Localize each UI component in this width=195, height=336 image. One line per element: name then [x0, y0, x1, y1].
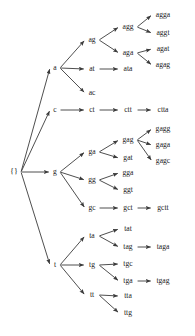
tree-node-tt: tt — [90, 290, 95, 299]
tree-node-agga: agga — [156, 10, 171, 19]
tree-node-ggt: ggt — [123, 185, 134, 194]
tree-node-ttg: ttg — [124, 308, 132, 317]
nodes-layer: {}acgtagatacctgagggctatgttaggagaatacttga… — [10, 10, 171, 317]
tree-node-gagg: gagg — [156, 124, 171, 133]
tree-node-tgag: tgag — [156, 276, 169, 285]
tree-edge-gg-to-ggt — [100, 180, 118, 189]
tree-node-ctt: ctt — [124, 105, 132, 114]
tree-node-ga: ga — [88, 147, 96, 156]
tree-node-at: at — [89, 64, 95, 73]
tree-node-gg: gg — [88, 175, 96, 184]
tree-node-tat: tat — [124, 224, 132, 233]
tree-node-gc: gc — [88, 203, 96, 212]
tree-edge-t-to-tt — [60, 265, 84, 294]
tree-node-tgc: tgc — [123, 259, 133, 268]
tree-edge-aga-to-agag — [137, 53, 151, 64]
tree-edge-t-to-ta — [60, 237, 84, 265]
tree-node-agg: agg — [123, 22, 134, 31]
tree-node-ata: ata — [124, 64, 133, 73]
tree-node-ctta: ctta — [158, 105, 170, 114]
tree-node-g: g — [53, 167, 57, 176]
tree-edge-root-to-t — [21, 172, 49, 263]
tree-edge-ga-to-gag — [99, 141, 117, 152]
tree-edge-tg-to-tgc — [100, 264, 118, 265]
tree-canvas: {}acgtagatacctgagggctatgttaggagaatacttga… — [0, 0, 195, 336]
tree-edge-tt-to-tta — [100, 295, 118, 296]
tree-node-ct: ct — [89, 105, 95, 114]
tree-node-a: a — [53, 63, 57, 72]
tree-edge-ag-to-agg — [99, 28, 117, 40]
tree-node-aggt: aggt — [156, 28, 170, 37]
tree-node-ag: ag — [88, 35, 95, 44]
tree-node-agag: agag — [156, 60, 171, 69]
tree-edge-a-to-ac — [60, 68, 84, 92]
tree-root-node: {} — [10, 167, 18, 176]
tree-edge-gg-to-gga — [100, 173, 118, 179]
tree-node-tag: tag — [123, 242, 132, 251]
tree-node-gga: gga — [123, 168, 135, 177]
tree-edge-tt-to-ttg — [99, 295, 118, 312]
tree-node-gctt: gctt — [157, 203, 169, 212]
tree-edge-ag-to-aga — [99, 40, 117, 52]
tree-node-agat: agat — [157, 44, 171, 53]
tree-node-gct: gct — [123, 203, 133, 212]
tree-node-ta: ta — [89, 231, 95, 240]
tree-edge-ga-to-gat — [100, 152, 118, 158]
tree-edge-a-to-ag — [60, 41, 84, 68]
tree-edge-g-to-gc — [60, 172, 84, 207]
tree-node-tg: tg — [89, 260, 95, 269]
tree-node-tga: tga — [123, 276, 133, 285]
tree-edge-agg-to-agga — [137, 16, 151, 27]
tree-edge-aga-to-agat — [138, 49, 151, 53]
tree-node-taga: taga — [157, 242, 170, 251]
tree-node-gagc: gagc — [156, 156, 171, 165]
tree-edge-ta-to-tat — [100, 229, 118, 235]
tree-node-aga: aga — [123, 48, 134, 57]
prefix-tree-diagram: {}acgtagatacctgagggctatgttaggagaatacttga… — [0, 0, 195, 336]
tree-edge-agg-to-aggt — [138, 27, 151, 32]
tree-node-gaga: gaga — [156, 140, 171, 149]
tree-node-tta: tta — [124, 291, 132, 300]
tree-edge-g-to-ga — [60, 153, 84, 172]
tree-edge-tg-to-tga — [99, 265, 118, 280]
tree-edge-a-to-at — [61, 68, 84, 69]
tree-node-gat: gat — [123, 153, 133, 162]
tree-edge-gag-to-gagg — [137, 130, 150, 140]
tree-node-ac: ac — [89, 88, 96, 97]
tree-edge-ta-to-tag — [99, 236, 117, 246]
tree-edge-gag-to-gagc — [137, 140, 151, 160]
tree-node-t: t — [54, 260, 57, 269]
tree-node-c: c — [53, 105, 57, 114]
tree-node-gag: gag — [123, 135, 134, 144]
